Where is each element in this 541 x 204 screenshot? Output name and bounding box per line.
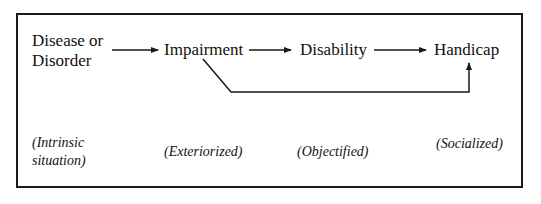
note-intrinsic-line1: (Intrinsic (32, 134, 86, 152)
node-impairment: Impairment (164, 40, 243, 60)
note-exteriorized: (Exteriorized) (164, 143, 243, 161)
note-intrinsic: (Intrinsic situation) (32, 134, 86, 170)
note-socialized: (Socialized) (436, 135, 503, 153)
node-disease-line1: Disease or (32, 31, 103, 51)
node-disease: Disease or Disorder (32, 31, 103, 71)
note-objectified: (Objectified) (297, 143, 369, 161)
note-intrinsic-line2: situation) (32, 152, 86, 170)
arrow-impairment-to-handicap-bypass (203, 59, 469, 92)
node-handicap: Handicap (434, 40, 499, 60)
node-disease-line2: Disorder (32, 51, 103, 71)
node-disability: Disability (300, 40, 367, 60)
